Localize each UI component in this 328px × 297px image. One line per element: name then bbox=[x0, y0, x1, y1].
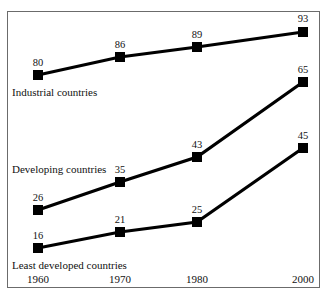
series-label-industrial: Industrial countries bbox=[12, 86, 97, 98]
point-label-developing-1980: 43 bbox=[192, 139, 203, 150]
point-label-least-developed-1960: 16 bbox=[33, 230, 44, 241]
point-label-industrial-1960: 80 bbox=[33, 57, 44, 68]
point-label-developing-1970: 35 bbox=[115, 164, 126, 175]
scan-artifact-text bbox=[3, 0, 63, 7]
x-axis-tick-2000: 2000 bbox=[292, 273, 314, 285]
x-axis-tick-1980: 1980 bbox=[186, 273, 208, 285]
point-label-developing-1960: 26 bbox=[33, 192, 44, 203]
point-label-industrial-2000: 93 bbox=[298, 13, 309, 24]
series-label-least-developed: Least developed countries bbox=[12, 259, 127, 271]
series-label-developing: Developing countries bbox=[12, 163, 106, 175]
x-axis-tick-1960: 1960 bbox=[27, 273, 49, 285]
line-chart: 80 86 89 93 26 35 43 65 16 21 25 45 Indu… bbox=[0, 0, 328, 297]
point-label-least-developed-2000: 45 bbox=[298, 130, 309, 141]
chart-plot-frame bbox=[7, 11, 320, 288]
point-label-industrial-1970: 86 bbox=[115, 39, 126, 50]
point-label-industrial-1980: 89 bbox=[192, 29, 203, 40]
point-label-least-developed-1980: 25 bbox=[192, 204, 203, 215]
point-label-developing-2000: 65 bbox=[298, 64, 309, 75]
point-label-least-developed-1970: 21 bbox=[115, 214, 126, 225]
x-axis-tick-1970: 1970 bbox=[109, 273, 131, 285]
